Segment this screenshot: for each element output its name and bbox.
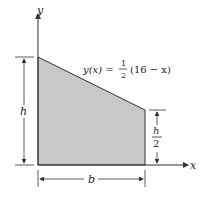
trapezoid-area-diagram: y x y(x) = 1 2 (16 − x) h h 2 b	[0, 0, 205, 200]
y-axis-label: y	[36, 4, 44, 17]
left-height-label: h	[20, 105, 27, 118]
equation-lhs: y(x) =	[82, 64, 114, 75]
equation-frac-num: 1	[121, 59, 126, 68]
equation-rhs: (16 − x)	[130, 64, 171, 75]
equation-frac-den: 2	[121, 71, 126, 80]
right-height-label-den: 2	[153, 138, 159, 149]
base-label: b	[88, 173, 95, 186]
right-height-label-num: h	[153, 125, 159, 136]
x-axis-label: x	[190, 159, 197, 172]
